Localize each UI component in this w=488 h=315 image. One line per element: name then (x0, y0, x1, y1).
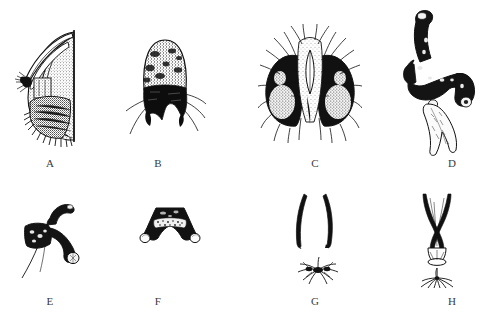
panel-c-drawing (258, 22, 362, 144)
panel-label-c: C (305, 157, 325, 169)
panel-label-f: F (148, 295, 168, 307)
panel-label-d: D (442, 157, 462, 169)
panel-label-b: B (148, 157, 168, 169)
panel-d-figure (398, 8, 484, 158)
figure-plate: A (0, 0, 488, 315)
panel-a-figure (12, 20, 100, 148)
panel-h-figure (404, 192, 470, 288)
panel-label-e: E (40, 295, 60, 307)
panel-b-drawing (124, 28, 206, 143)
panel-e-drawing (18, 198, 92, 280)
panel-e-figure (18, 198, 92, 280)
panel-g-drawing (284, 192, 352, 288)
panel-label-g: G (305, 295, 325, 307)
panel-b-figure (124, 28, 206, 143)
panel-label-h: H (442, 295, 462, 307)
panel-c-figure (258, 22, 362, 144)
panel-a-drawing (12, 20, 100, 148)
panel-g-figure (284, 192, 352, 288)
panel-f-drawing (134, 200, 206, 260)
panel-label-a: A (40, 157, 60, 169)
panel-d-drawing (398, 8, 484, 158)
panel-f-figure (134, 200, 206, 260)
panel-h-drawing (404, 192, 470, 288)
